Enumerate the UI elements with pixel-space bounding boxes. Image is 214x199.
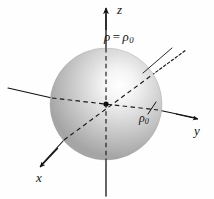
axis-z-label: z bbox=[117, 3, 122, 16]
axis-y-label: y bbox=[194, 124, 200, 137]
equation-subscript: 0 bbox=[129, 35, 134, 45]
axis-x-negative-segment bbox=[152, 50, 186, 75]
equation-operator: = bbox=[111, 29, 123, 44]
rho-zero-subscript: 0 bbox=[145, 117, 149, 126]
axis-y-negative-segment bbox=[8, 88, 52, 98]
equation-rho: ρ bbox=[104, 29, 111, 44]
axis-y-arrow bbox=[176, 114, 198, 119]
axis-x-label: x bbox=[36, 171, 42, 184]
equation-label: ρ=ρ0 bbox=[104, 30, 134, 45]
figure-container: ρ=ρ0 ρ0 z y x bbox=[0, 0, 214, 199]
axis-x-arrow bbox=[40, 148, 58, 167]
rho-zero-label: ρ0 bbox=[139, 112, 149, 126]
leader-line bbox=[143, 48, 172, 73]
equation-leader-line bbox=[143, 48, 172, 73]
origin-dot bbox=[103, 101, 108, 106]
axis-x-positive-segment bbox=[42, 140, 64, 164]
origin-marker bbox=[103, 101, 108, 106]
